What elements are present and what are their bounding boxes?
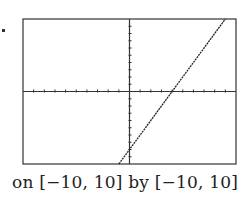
graphing-calculator-plot: [0, 0, 250, 170]
window-caption: on [−10, 10] by [−10, 10]: [0, 172, 250, 192]
